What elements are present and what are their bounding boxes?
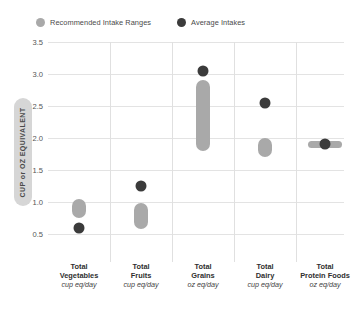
gridline-horizontal: 1.5 [48,170,344,171]
y-tick-label: 0.5 [32,230,43,239]
legend-item-recommended-intake-ranges: Recommended Intake Ranges [36,18,151,27]
legend-label-recommended-intake-ranges: Recommended Intake Ranges [50,18,151,27]
y-tick-label: 2.0 [32,134,43,143]
gridline-vertical [172,42,173,262]
gridline-horizontal: 3.0 [48,74,344,75]
x-axis-labels: Total Vegetables cup eq/day Total Fruits… [48,262,344,306]
gridline-vertical [296,42,297,262]
y-tick-label: 1.5 [32,166,43,175]
average-intake-dot [198,66,209,77]
range-bar [196,80,210,151]
x-label-line2: Protein Foods [289,271,359,280]
range-bar [258,138,272,157]
legend-swatch-circle-icon [36,18,45,27]
average-intake-dot [260,98,271,109]
y-axis-title-text: CUP or OZ EQUIVALENT [20,107,27,197]
average-intake-dot [74,223,85,234]
average-intake-dot [320,139,331,150]
gridline-horizontal: 1.0 [48,202,344,203]
y-tick-label: 3.0 [32,70,43,79]
range-bar [72,199,86,218]
gridline-vertical [234,42,235,262]
gridline-horizontal: 3.5 [48,42,344,43]
plot-area: 3.5 3.0 2.5 2.0 1.5 1.0 0.5 [48,42,344,250]
y-tick-label: 2.5 [32,102,43,111]
chart-legend: Recommended Intake Ranges Average Intake… [36,14,245,30]
y-tick-label: 3.5 [32,38,43,47]
chart-root: Recommended Intake Ranges Average Intake… [0,0,359,309]
average-intake-dot [136,181,147,192]
x-axis-label-total-protein-foods: Total Protein Foods oz eq/day [289,262,359,290]
y-axis-title: CUP or OZ EQUIVALENT [14,98,32,206]
legend-item-average-intakes: Average Intakes [177,18,245,27]
y-tick-label: 1.0 [32,198,43,207]
gridline-vertical [110,42,111,262]
legend-swatch-circle-icon [177,18,186,27]
legend-label-average-intakes: Average Intakes [191,18,245,27]
x-label-line1: Total [289,262,359,271]
x-label-units: oz eq/day [289,281,359,290]
range-bar [134,203,148,229]
gridline-horizontal: 0.5 [48,234,344,235]
